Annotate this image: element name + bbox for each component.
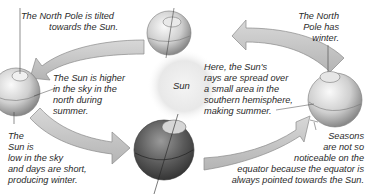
label-equator-seasons: Seasons are not so noticeable on the equ…	[232, 131, 364, 186]
label-north-pole-tilted: The North Pole is tilted towards the Sun…	[21, 11, 118, 33]
label-sun-low-winter: The Sun is low in the sky and days are s…	[8, 131, 87, 186]
earth-globe-bottom	[134, 114, 194, 194]
label-rays-spread: Here, the Sun's rays are spread over a s…	[204, 62, 293, 117]
label-north-pole-winter: The North Pole has winter.	[298, 11, 339, 44]
label-sun-higher: The Sun is higher in the sky in the nort…	[53, 73, 125, 117]
sun-label: Sun	[173, 80, 190, 91]
seasons-diagram: The North Pole is tilted towards the Sun…	[0, 0, 368, 194]
